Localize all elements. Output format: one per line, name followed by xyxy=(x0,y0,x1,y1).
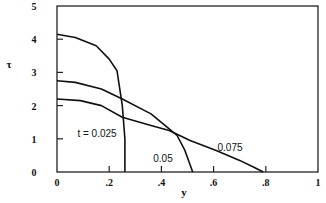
curve-label-2: 0.075 xyxy=(217,142,242,153)
y-tick-label: 2 xyxy=(32,101,37,112)
x-tick-label: .4 xyxy=(158,177,166,188)
x-axis-ticks: 0.2.4.6.81 xyxy=(55,166,321,188)
x-axis-label: y xyxy=(181,186,187,198)
x-tick-label: .2 xyxy=(105,177,113,188)
x-tick-label: 0 xyxy=(55,177,60,188)
y-axis-ticks: 012345 xyxy=(32,1,64,178)
x-tick-label: .6 xyxy=(210,177,218,188)
curve-label-1: 0.05 xyxy=(153,153,173,164)
plot-area-border xyxy=(57,6,318,172)
y-tick-label: 5 xyxy=(32,1,37,12)
y-tick-label: 3 xyxy=(32,67,37,78)
x-tick-label: .8 xyxy=(262,177,270,188)
chart: 0.2.4.6.81 012345 t = 0.0250.050.075 y τ xyxy=(0,0,326,203)
x-tick-label: 1 xyxy=(316,177,321,188)
y-tick-label: 0 xyxy=(32,167,37,178)
plot-frame xyxy=(57,6,318,172)
y-tick-label: 1 xyxy=(32,134,37,145)
curve-labels: t = 0.0250.050.075 xyxy=(77,128,243,164)
y-tick-label: 4 xyxy=(32,34,37,45)
y-axis-label: τ xyxy=(6,58,11,70)
curve-label-0: t = 0.025 xyxy=(77,128,117,139)
